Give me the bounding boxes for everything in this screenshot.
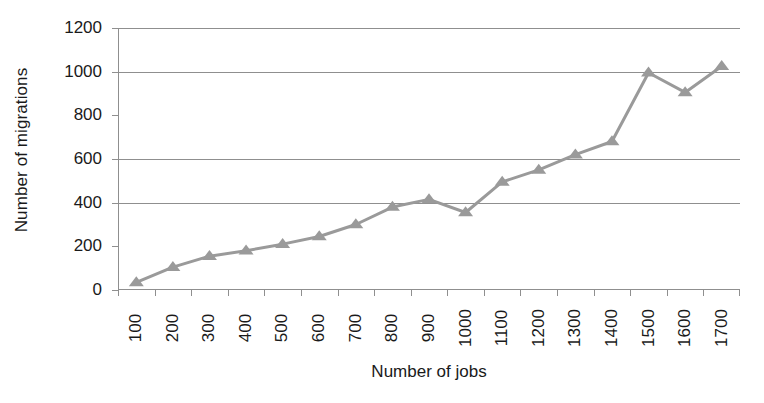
x-tick-label-text: 1300 bbox=[565, 309, 585, 347]
x-tick-label: 400 bbox=[228, 296, 265, 358]
data-point-marker bbox=[422, 193, 437, 203]
x-tick-label: 1300 bbox=[557, 296, 594, 358]
x-tick-label-text: 700 bbox=[346, 314, 366, 342]
x-tick-label-text: 200 bbox=[163, 314, 183, 342]
x-tick-label-text: 1400 bbox=[602, 309, 622, 347]
y-tick-label: 0 bbox=[93, 280, 102, 300]
y-tick-label: 1200 bbox=[64, 18, 102, 38]
x-tick-label-text: 1100 bbox=[492, 310, 512, 347]
x-tick-label: 300 bbox=[191, 296, 228, 358]
x-tick-label-text: 1200 bbox=[529, 309, 549, 347]
y-axis-title: Number of migrations bbox=[0, 0, 44, 300]
x-axis-title: Number of jobs bbox=[118, 362, 740, 382]
data-point-marker bbox=[641, 67, 656, 77]
x-tick-label: 100 bbox=[118, 296, 155, 358]
x-tick-label: 700 bbox=[338, 296, 375, 358]
x-tick-label-text: 1600 bbox=[675, 309, 695, 347]
x-tick-label: 200 bbox=[155, 296, 192, 358]
line-chart: Number of migrations 0200400600800100012… bbox=[0, 0, 764, 403]
x-tick-label: 900 bbox=[411, 296, 448, 358]
y-axis-title-text: Number of migrations bbox=[12, 68, 32, 233]
series-line bbox=[136, 66, 721, 282]
data-point-marker bbox=[604, 135, 619, 145]
data-point-marker bbox=[714, 60, 729, 70]
y-tick-label: 200 bbox=[74, 236, 102, 256]
y-axis-tick-labels: 020040060080010001200 bbox=[44, 0, 110, 300]
x-tick-label: 1100 bbox=[484, 296, 521, 358]
y-tick-label: 800 bbox=[74, 105, 102, 125]
x-tick-label-text: 400 bbox=[236, 314, 256, 342]
x-tick-label: 600 bbox=[301, 296, 338, 358]
x-tick-label: 1700 bbox=[703, 296, 740, 358]
x-tick-label: 800 bbox=[374, 296, 411, 358]
x-tick-label-text: 800 bbox=[382, 314, 402, 342]
y-tick-label: 400 bbox=[74, 193, 102, 213]
x-tick-label-text: 1700 bbox=[712, 309, 732, 347]
x-tick-label: 1400 bbox=[594, 296, 631, 358]
x-tick-label-text: 300 bbox=[199, 314, 219, 342]
x-tick-label-text: 100 bbox=[126, 314, 146, 342]
x-tick-label-text: 600 bbox=[309, 314, 329, 342]
x-tick-label: 1200 bbox=[520, 296, 557, 358]
x-tick-label: 1500 bbox=[630, 296, 667, 358]
x-axis-tick-labels: 1002003004005006007008009001000110012001… bbox=[118, 296, 740, 358]
y-tick-label: 1000 bbox=[64, 62, 102, 82]
x-tick-label: 1000 bbox=[447, 296, 484, 358]
x-tick-label: 1600 bbox=[667, 296, 704, 358]
x-tick-label-text: 1500 bbox=[639, 309, 659, 347]
data-series bbox=[118, 28, 740, 290]
x-tick-label: 500 bbox=[264, 296, 301, 358]
plot-area bbox=[118, 28, 740, 290]
x-tick-label-text: 1000 bbox=[456, 309, 476, 347]
y-tick-label: 600 bbox=[74, 149, 102, 169]
x-tick-label-text: 900 bbox=[419, 314, 439, 342]
x-tick-label-text: 500 bbox=[273, 314, 293, 342]
